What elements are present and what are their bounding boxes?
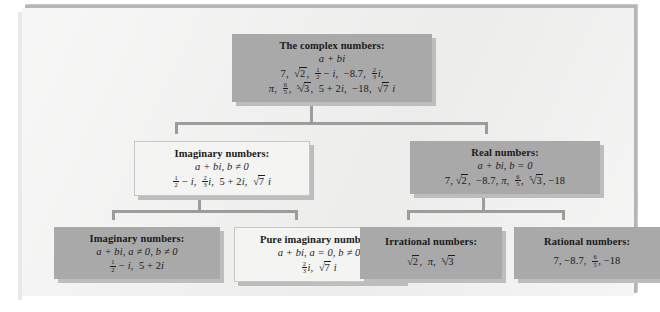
node-examples: 12 − i, 23i, 5 + 2i, √7 i [141, 174, 303, 189]
node-examples-line1: 7, √2, 12 − i, −8.7, 23i, [238, 66, 426, 81]
node-examples-line2: π, 65, 5√3, 5 + 2i, −18, √7 i [238, 81, 426, 96]
connector-to-imaginary [175, 122, 178, 134]
node-irrational-numbers[interactable]: Irrational numbers: √2, π, 5√3 [360, 227, 502, 279]
node-examples: 7, √2, −8.7, π, 65, 5√3, −18 [416, 173, 594, 188]
node-real-numbers[interactable]: Real numbers: a + bi, b = 0 7, √2, −8.7,… [410, 141, 600, 194]
node-imaginary-numbers-nonzero[interactable]: Imaginary numbers: a + bi, a ≠ 0, b ≠ 0 … [54, 227, 220, 279]
node-definition: a + bi, a ≠ 0, b ≠ 0 [60, 245, 214, 258]
node-title: Rational numbers: [520, 235, 654, 248]
diagram-panel: The complex numbers: a + bi 7, √2, 12 − … [22, 8, 634, 296]
node-definition: a + bi, b ≠ 0 [141, 160, 303, 173]
node-definition: a + bi [238, 52, 426, 65]
connector-to-rational [562, 210, 565, 220]
connector-level1-bar [175, 122, 488, 125]
node-title: Real numbers: [416, 146, 594, 159]
node-complex-numbers[interactable]: The complex numbers: a + bi 7, √2, 12 − … [232, 34, 432, 102]
node-examples: 7, −8.7, 65, −18 [520, 254, 654, 268]
connector-to-imaginary-nonzero [112, 210, 115, 220]
connector-complex-stem [310, 99, 313, 123]
node-title: Imaginary numbers: [60, 232, 214, 245]
node-examples: 12 − i, 5 + 2i [60, 259, 214, 273]
node-title: Irrational numbers: [366, 235, 496, 248]
node-examples: √2, π, 5√3 [366, 254, 496, 268]
connector-to-irrational [407, 210, 410, 220]
connector-level2-left-bar [112, 210, 298, 213]
node-imaginary-numbers[interactable]: Imaginary numbers: a + bi, b ≠ 0 12 − i,… [134, 141, 310, 196]
connector-to-pure-imaginary [295, 210, 298, 220]
node-title: The complex numbers: [238, 39, 426, 52]
node-rational-numbers[interactable]: Rational numbers: 7, −8.7, 65, −18 [514, 227, 660, 279]
connector-to-real [485, 122, 488, 134]
connector-level2-right-bar [407, 210, 565, 213]
node-title: Imaginary numbers: [141, 147, 303, 160]
node-definition: a + bi, b = 0 [416, 159, 594, 172]
